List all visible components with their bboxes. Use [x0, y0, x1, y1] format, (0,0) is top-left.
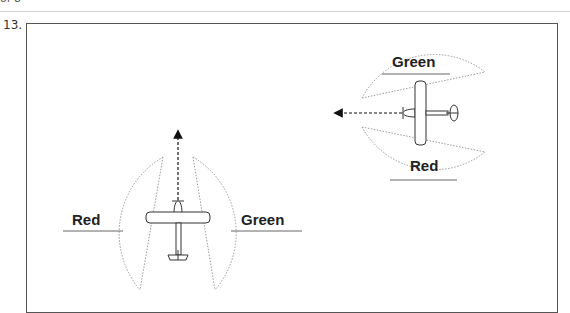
left-aircraft-green-label: Green: [241, 211, 284, 228]
right-aircraft-red-label: Red: [410, 157, 438, 174]
left-aircraft-group: Red Green: [63, 134, 302, 290]
left-aircraft-icon: [146, 201, 210, 260]
left-aircraft-red-label: Red: [72, 211, 100, 228]
right-aircraft-green-label: Green: [392, 53, 435, 70]
right-aircraft-group: Green Red: [338, 53, 485, 180]
right-aircraft-icon: [403, 81, 458, 145]
